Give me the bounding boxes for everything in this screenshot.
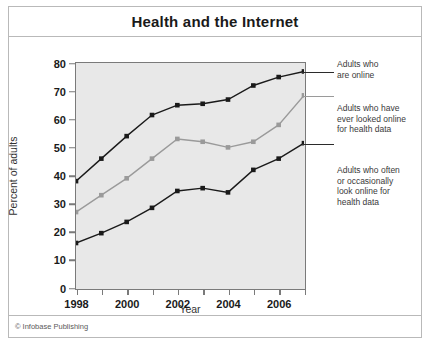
- y-tick-label: 70: [40, 86, 66, 98]
- series-marker: [251, 83, 256, 88]
- series-marker: [276, 75, 281, 80]
- legend-entry-often-occasionally: Adults who oftenor occasionallylook onli…: [337, 165, 423, 207]
- series-marker: [124, 134, 129, 139]
- series-marker: [226, 190, 231, 195]
- series-marker: [175, 137, 180, 142]
- legend-label-line: Adults who: [337, 59, 423, 70]
- y-tick-label: 60: [40, 114, 66, 126]
- y-tick-label: 20: [40, 226, 66, 238]
- copyright-text: © Infobase Publishing: [9, 322, 88, 331]
- series-marker: [76, 241, 78, 246]
- series-line: [76, 143, 304, 243]
- legend-label-line: look online for: [337, 186, 423, 197]
- series-layer: [76, 63, 304, 288]
- series-marker: [99, 231, 104, 236]
- series-marker: [124, 220, 129, 225]
- legend-leader-line: [302, 144, 334, 145]
- x-tick-label: 1998: [64, 298, 88, 310]
- chart-footer: © Infobase Publishing: [9, 315, 421, 337]
- legend-leader-line: [302, 72, 334, 73]
- plot-wrapper: Percent of adults Year 01020304050607080…: [9, 37, 423, 317]
- series-marker: [76, 179, 78, 184]
- chart-title-bar: Health and the Internet: [9, 7, 421, 37]
- legend-label-line: health data: [337, 197, 423, 208]
- series-marker: [99, 156, 104, 161]
- series-marker: [200, 139, 205, 144]
- legend-label-line: Adults who often: [337, 165, 423, 176]
- legend-label-line: Adults who have: [337, 103, 423, 114]
- legend-leader-line: [302, 96, 334, 97]
- series-marker: [251, 139, 256, 144]
- x-tick-label: 2002: [166, 298, 190, 310]
- series-line: [76, 71, 304, 181]
- legend-label-line: ever looked online: [337, 114, 423, 125]
- series-marker: [200, 186, 205, 191]
- series-marker: [175, 103, 180, 108]
- legend-label-line: or occasionally: [337, 176, 423, 187]
- series-marker: [150, 206, 155, 211]
- y-tick-label: 80: [40, 58, 66, 70]
- series-marker: [175, 189, 180, 194]
- plot-area: [75, 62, 306, 290]
- series-marker: [226, 145, 231, 150]
- y-tick-label: 50: [40, 142, 66, 154]
- series-marker: [276, 156, 281, 161]
- series-marker: [226, 97, 231, 102]
- series-marker: [251, 168, 256, 173]
- x-tick-label: 2006: [267, 298, 291, 310]
- y-axis-label: Percent of adults: [7, 137, 19, 216]
- series-marker: [99, 193, 104, 198]
- chart-figure: Health and the Internet Percent of adult…: [8, 6, 422, 338]
- y-tick-label: 10: [40, 254, 66, 266]
- series-marker: [76, 210, 78, 215]
- y-tick-label: 30: [40, 198, 66, 210]
- x-tick-label: 2004: [216, 298, 240, 310]
- x-tick-label: 2000: [115, 298, 139, 310]
- chart-title: Health and the Internet: [131, 13, 298, 30]
- series-marker: [150, 113, 155, 118]
- y-tick-label: 0: [40, 283, 66, 295]
- series-marker: [124, 176, 129, 181]
- y-tick-label: 40: [40, 170, 66, 182]
- legend-entry-ever-looked: Adults who haveever looked onlinefor hea…: [337, 103, 423, 135]
- legend-label-line: for health data: [337, 124, 423, 135]
- legend-entry-online: Adults whoare online: [337, 59, 423, 80]
- series-line: [76, 95, 304, 212]
- series-marker: [276, 123, 281, 128]
- series-marker: [200, 101, 205, 106]
- series-marker: [150, 156, 155, 161]
- legend-label-line: are online: [337, 70, 423, 81]
